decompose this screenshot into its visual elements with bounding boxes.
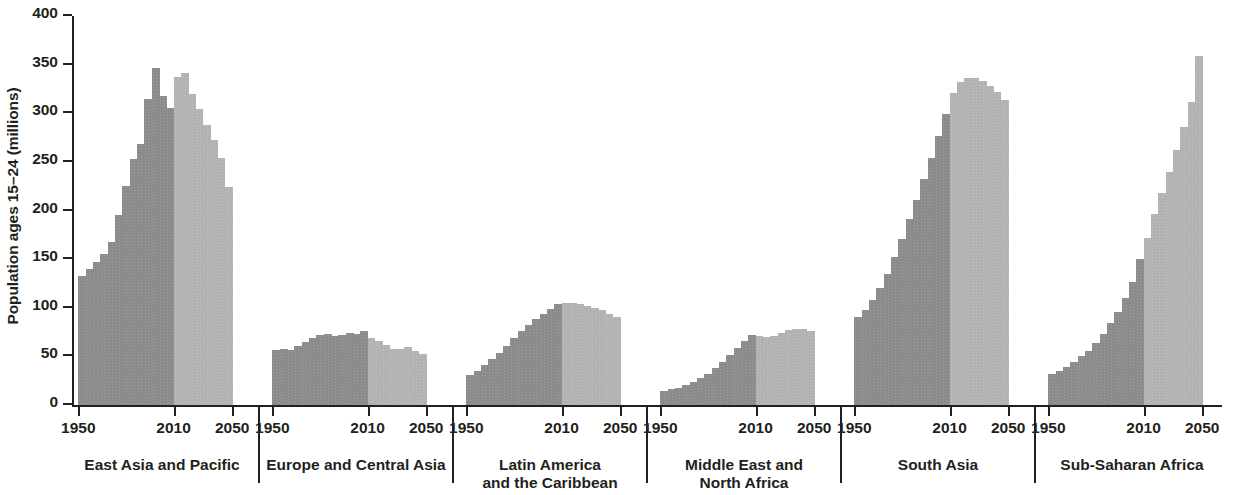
x-axis-tick-label: 1950 xyxy=(255,419,289,437)
x-axis-tick xyxy=(814,407,816,416)
bar xyxy=(1195,56,1203,405)
y-axis-tick: 0 xyxy=(63,403,72,405)
x-axis-tick xyxy=(950,407,952,416)
x-axis-tick xyxy=(620,407,622,416)
x-axis-tick xyxy=(854,407,856,416)
y-axis-tick-label: 300 xyxy=(32,101,58,119)
panel-caption-line: Europe and Central Asia xyxy=(266,456,445,474)
chart-panel xyxy=(72,16,252,407)
x-axis-tick xyxy=(1202,407,1204,416)
x-axis-tick-label: 2050 xyxy=(797,419,831,437)
x-axis-tick-label: 2050 xyxy=(1185,419,1219,437)
bar-group xyxy=(460,16,640,405)
y-axis-tick-label: 150 xyxy=(32,247,58,265)
plot-area: 050100150200250300350400 195020102050Eas… xyxy=(72,16,1222,406)
x-axis-tick-label: 1950 xyxy=(1031,419,1065,437)
x-axis-tick-label: 1950 xyxy=(449,419,483,437)
chart-panel xyxy=(1042,16,1222,407)
x-axis-tick xyxy=(466,407,468,416)
chart-panel xyxy=(654,16,834,407)
y-axis-tick: 250 xyxy=(63,160,72,162)
bar xyxy=(1001,100,1009,405)
x-axis-tick xyxy=(78,407,80,416)
bar-group xyxy=(266,16,446,405)
panel-caption: Europe and Central Asia xyxy=(266,456,445,474)
y-axis-tick: 150 xyxy=(63,257,72,259)
y-axis-tick-label: 0 xyxy=(49,393,58,411)
bar xyxy=(419,354,427,405)
x-axis-tick xyxy=(1144,407,1146,416)
y-axis-tick-label: 200 xyxy=(32,199,58,217)
panel-caption-line: East Asia and Pacific xyxy=(84,456,239,474)
chart-figure: Population ages 15–24 (millions) 0501001… xyxy=(0,0,1234,495)
x-axis-tick-label: 2010 xyxy=(932,419,966,437)
chart-panel xyxy=(460,16,640,407)
x-axis-tick xyxy=(232,407,234,416)
y-axis-tick-label: 100 xyxy=(32,296,58,314)
chart-panel xyxy=(266,16,446,407)
panel-caption-line: Sub-Saharan Africa xyxy=(1060,456,1203,474)
x-axis-tick-label: 2050 xyxy=(215,419,249,437)
y-axis-tick-label: 250 xyxy=(32,150,58,168)
x-axis-tick-label: 2010 xyxy=(1126,419,1160,437)
x-axis-tick xyxy=(368,407,370,416)
x-axis-tick-label: 1950 xyxy=(643,419,677,437)
y-axis-tick-label: 50 xyxy=(41,344,58,362)
bar-group xyxy=(72,16,252,405)
bar-group xyxy=(654,16,834,405)
panel-caption: East Asia and Pacific xyxy=(84,456,239,474)
y-axis-tick: 300 xyxy=(63,111,72,113)
x-axis-tick xyxy=(1048,407,1050,416)
panel-caption: Latin Americaand the Caribbean xyxy=(482,456,617,492)
panel-caption-line: and the Caribbean xyxy=(482,474,617,492)
panel-caption-line: South Asia xyxy=(898,456,978,474)
panel-caption-line: Middle East and xyxy=(685,456,803,474)
x-axis-tick-label: 2050 xyxy=(409,419,443,437)
x-axis-tick xyxy=(1008,407,1010,416)
x-axis-tick xyxy=(562,407,564,416)
bar xyxy=(613,317,621,405)
panel-caption: Sub-Saharan Africa xyxy=(1060,456,1203,474)
x-axis-tick-label: 2050 xyxy=(991,419,1025,437)
y-axis-tick: 200 xyxy=(63,209,72,211)
bar-group xyxy=(1042,16,1222,405)
y-axis-tick: 50 xyxy=(63,354,72,356)
x-axis-tick xyxy=(660,407,662,416)
y-axis-tick: 350 xyxy=(63,63,72,65)
x-axis-tick-label: 2010 xyxy=(350,419,384,437)
y-axis-tick: 400 xyxy=(63,14,72,16)
bar-group xyxy=(848,16,1028,405)
panel-caption-line: North Africa xyxy=(685,474,803,492)
y-axis-tick-label: 400 xyxy=(32,4,58,22)
x-axis-tick-label: 2010 xyxy=(544,419,578,437)
x-axis-tick xyxy=(756,407,758,416)
bar xyxy=(225,187,233,405)
chart-panel xyxy=(848,16,1028,407)
x-axis-tick-label: 2050 xyxy=(603,419,637,437)
x-axis-tick-label: 1950 xyxy=(61,419,95,437)
panel-caption: South Asia xyxy=(898,456,978,474)
x-axis-tick xyxy=(272,407,274,416)
y-axis-title-text: Population ages 15–24 (millions) xyxy=(4,87,22,324)
bar xyxy=(807,331,815,405)
x-axis-tick-label: 2010 xyxy=(156,419,190,437)
x-axis-tick xyxy=(174,407,176,416)
y-axis-title: Population ages 15–24 (millions) xyxy=(0,0,26,412)
y-axis-tick-label: 350 xyxy=(32,53,58,71)
x-axis-tick-label: 1950 xyxy=(837,419,871,437)
panel-caption: Middle East andNorth Africa xyxy=(685,456,803,492)
panel-caption-line: Latin America xyxy=(482,456,617,474)
x-axis-tick xyxy=(426,407,428,416)
y-axis-tick: 100 xyxy=(63,306,72,308)
x-axis-tick-label: 2010 xyxy=(738,419,772,437)
